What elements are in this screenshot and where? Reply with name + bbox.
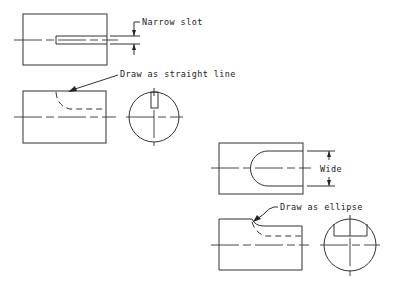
- wide-slot-top-view: Wide: [211, 143, 342, 194]
- wide-label: Wide: [320, 164, 342, 174]
- draw-straight-label: Draw as straight line: [120, 69, 236, 79]
- narrow-slot-label: Narrow slot: [142, 17, 203, 27]
- narrow-slot-end-view: [126, 88, 183, 146]
- narrow-slot-top-view: Narrow slot: [14, 14, 203, 65]
- narrow-slot-front-view: Draw as straight line: [14, 69, 236, 143]
- wide-slot-end-view: [320, 215, 380, 276]
- drawing-canvas: Narrow slot Draw as straight line Wide: [0, 0, 396, 291]
- draw-ellipse-label: Draw as ellipse: [280, 202, 363, 212]
